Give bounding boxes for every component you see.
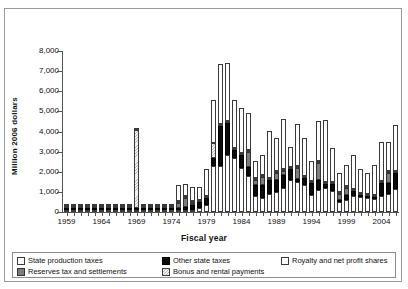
bar-1974 (169, 204, 174, 212)
bar-segment-state_production_taxes (330, 191, 335, 212)
legend-label-state-production-taxes: State production taxes (28, 256, 103, 265)
bar-segment-state_production_taxes (232, 158, 237, 212)
bar-2006 (393, 125, 398, 212)
bar-segment-state_production_taxes (344, 200, 349, 212)
bar-segment-state_production_taxes (302, 185, 307, 212)
bar-segment-royalty_and_net_profit_shares (344, 165, 349, 187)
bar-segment-state_production_taxes (267, 194, 272, 212)
x-tick-mark (221, 213, 222, 216)
bar-segment-state_production_taxes (113, 210, 118, 212)
x-tick-label: 1984 (227, 217, 257, 226)
bar-segment-other_state_taxes (288, 169, 293, 179)
bar-segment-royalty_and_net_profit_shares (323, 120, 328, 182)
bar-2003 (372, 165, 377, 212)
x-tick-mark (389, 213, 390, 216)
x-tick-mark (200, 213, 201, 216)
bar-segment-royalty_and_net_profit_shares (260, 155, 265, 175)
x-tick-mark (249, 213, 250, 216)
bar-1979 (204, 169, 209, 212)
bar-segment-royalty_and_net_profit_shares (351, 155, 356, 188)
bar-segment-other_state_taxes (225, 123, 230, 155)
bar-segment-other_state_taxes (281, 175, 286, 187)
legend-swatch-icon-bonus-and-rental-payments (162, 268, 170, 276)
bar-1969 (134, 128, 139, 212)
x-tick-mark (165, 213, 166, 216)
bar-1994 (309, 161, 314, 212)
bar-segment-royalty_and_net_profit_shares (232, 100, 237, 148)
x-tick-mark (109, 213, 110, 216)
bar-segment-reserves_tax_and_settlements (246, 152, 251, 167)
bar-1993 (302, 138, 307, 212)
bar-1980 (211, 100, 216, 212)
bar-segment-state_production_taxes (274, 192, 279, 212)
x-tick-mark (193, 213, 194, 216)
bar-segment-royalty_and_net_profit_shares (211, 100, 216, 143)
y-tick-mark (57, 51, 62, 52)
x-tick-mark (144, 213, 145, 216)
bar-segment-state_production_taxes (225, 155, 230, 212)
bar-segment-royalty_and_net_profit_shares (218, 64, 223, 124)
y-tick-label: 6,000 (25, 87, 59, 95)
bar-segment-state_production_taxes (393, 189, 398, 212)
bar-segment-royalty_and_net_profit_shares (302, 138, 307, 176)
x-tick-mark (326, 213, 327, 216)
bar-segment-other_state_taxes (393, 173, 398, 189)
x-tick-mark (116, 213, 117, 216)
y-tick-mark (57, 172, 62, 173)
bar-segment-state_production_taxes (71, 210, 76, 212)
x-tick-mark (130, 213, 131, 216)
bar-1959 (64, 204, 69, 212)
y-tick-mark (57, 152, 62, 153)
x-tick-mark (123, 213, 124, 216)
bar-segment-reserves_tax_and_settlements (260, 177, 265, 185)
bar-segment-state_production_taxes (64, 210, 69, 212)
legend-label-other-state-taxes: Other state taxes (173, 256, 230, 265)
bar-segment-state_production_taxes (183, 210, 188, 212)
x-tick-label: 1979 (192, 217, 222, 226)
x-tick-mark (319, 213, 320, 216)
x-tick-mark (207, 213, 208, 216)
bar-segment-state_production_taxes (120, 210, 125, 212)
bar-segment-state_production_taxes (99, 210, 104, 212)
bar-segment-state_production_taxes (253, 196, 258, 212)
x-tick-label: 1994 (297, 217, 327, 226)
bar-segment-other_state_taxes (267, 180, 272, 194)
legend-item-reserves-tax-and-settlements: Reserves tax and settlements (17, 267, 127, 276)
bar-segment-reserves_tax_and_settlements (183, 198, 188, 208)
x-tick-mark (284, 213, 285, 216)
x-axis-title: Fiscal year (5, 233, 403, 243)
x-tick-mark (291, 213, 292, 216)
chart-legend: State production taxes Other state taxes… (12, 252, 396, 278)
legend-swatch-icon-royalty-and-net-profit-shares (281, 257, 289, 265)
bar-segment-state_production_taxes (372, 199, 377, 212)
bar-segment-state_production_taxes (386, 194, 391, 212)
legend-label-royalty-and-net-profit-shares: Royalty and net profit shares (292, 256, 387, 265)
bar-segment-state_production_taxes (323, 188, 328, 212)
bar-1964 (99, 204, 104, 212)
bar-segment-royalty_and_net_profit_shares (309, 161, 314, 182)
x-tick-mark (158, 213, 159, 216)
x-tick-mark (214, 213, 215, 216)
y-tick-label: 5,000 (25, 107, 59, 115)
x-tick-mark (305, 213, 306, 216)
bar-segment-royalty_and_net_profit_shares (274, 138, 279, 171)
bar-segment-other_state_taxes (379, 183, 384, 196)
x-tick-mark (95, 213, 96, 216)
bar-segment-other_state_taxes (232, 150, 237, 158)
bar-segment-bonus_and_rental_payments (211, 143, 216, 159)
x-tick-mark (361, 213, 362, 216)
x-tick-mark (354, 213, 355, 216)
x-tick-mark (179, 213, 180, 216)
x-tick-label: 1969 (122, 217, 152, 226)
x-tick-mark (235, 213, 236, 216)
x-axis-tick-labels: 1959196419691974197919841989199419992004 (5, 217, 403, 231)
bar-segment-other_state_taxes (253, 185, 258, 196)
bar-1967 (120, 204, 125, 212)
legend-row-1: State production taxes Other state taxes… (17, 256, 391, 265)
bar-1973 (162, 204, 167, 212)
bar-1972 (155, 204, 160, 212)
bar-1995 (316, 121, 321, 212)
bar-segment-state_production_taxes (106, 210, 111, 212)
bar-1975 (176, 185, 181, 212)
bar-1989 (274, 138, 279, 212)
